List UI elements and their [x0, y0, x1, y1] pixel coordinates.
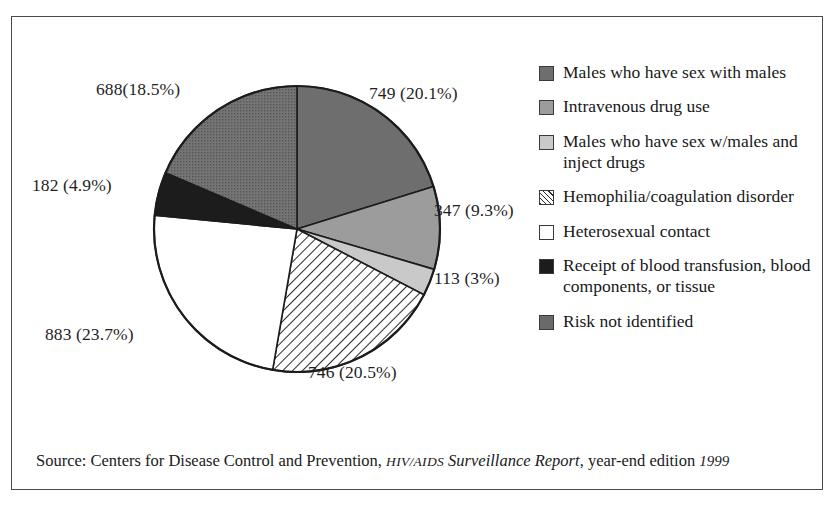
slice-label-hemophilia: 746 (20.5%) — [308, 362, 397, 383]
source-prefix: Source: Centers for Disease Control and … — [36, 451, 386, 470]
legend-item[interactable]: Males who have sex w/males and inject dr… — [539, 131, 817, 174]
slice-label-transfusion: 182 (4.9%) — [32, 175, 112, 196]
legend-item-label: Receipt of blood transfusion, blood comp… — [563, 255, 817, 298]
legend-item-label: Males who have sex with males — [563, 62, 786, 83]
legend-item-label: Risk not identified — [563, 311, 693, 332]
source-report-title: Surveillance Report — [444, 451, 580, 470]
legend-item[interactable]: Hemophilia/coagulation disorder — [539, 186, 817, 207]
legend-item-label: Intravenous drug use — [563, 96, 710, 117]
legend-item-label: Heterosexual contact — [563, 221, 710, 242]
slice-label-not-identified: 688(18.5%) — [96, 79, 180, 100]
black-swatch — [539, 259, 554, 274]
medium-gray-swatch — [539, 100, 554, 115]
slice-label-idu: 347 (9.3%) — [434, 200, 514, 221]
textured-gray-swatch — [539, 315, 554, 330]
legend-item-label: Hemophilia/coagulation disorder — [563, 186, 794, 207]
pie-slice[interactable] — [154, 215, 297, 370]
slice-label-heterosexual: 883 (23.7%) — [45, 324, 134, 345]
slice-label-msm: 749 (20.1%) — [369, 83, 458, 104]
legend-item[interactable]: Risk not identified — [539, 311, 817, 332]
source-report-abbrev: HIV/AIDS — [386, 454, 444, 469]
legend-item[interactable]: Intravenous drug use — [539, 96, 817, 117]
legend-item-label: Males who have sex w/males and inject dr… — [563, 131, 817, 174]
legend-item[interactable]: Males who have sex with males — [539, 62, 817, 83]
pie-chart-area: 749 (20.1%) 347 (9.3%) 113 (3%) 746 (20.… — [12, 17, 552, 437]
white-swatch — [539, 225, 554, 240]
diagonal-hatch-swatch — [539, 190, 554, 205]
legend-item[interactable]: Receipt of blood transfusion, blood comp… — [539, 255, 817, 298]
slice-label-msm-idu: 113 (3%) — [434, 268, 500, 289]
source-note: Source: Centers for Disease Control and … — [36, 451, 729, 471]
figure-frame: 749 (20.1%) 347 (9.3%) 113 (3%) 746 (20.… — [11, 16, 823, 490]
source-year: 1999 — [699, 453, 729, 469]
chart-legend: Males who have sex with malesIntravenous… — [539, 62, 817, 345]
source-suffix: , year-end edition — [580, 451, 700, 470]
light-gray-swatch — [539, 135, 554, 150]
legend-item[interactable]: Heterosexual contact — [539, 221, 817, 242]
pie-slices — [154, 86, 440, 372]
pie-chart-svg — [12, 17, 552, 437]
dark-gray-swatch — [539, 66, 554, 81]
